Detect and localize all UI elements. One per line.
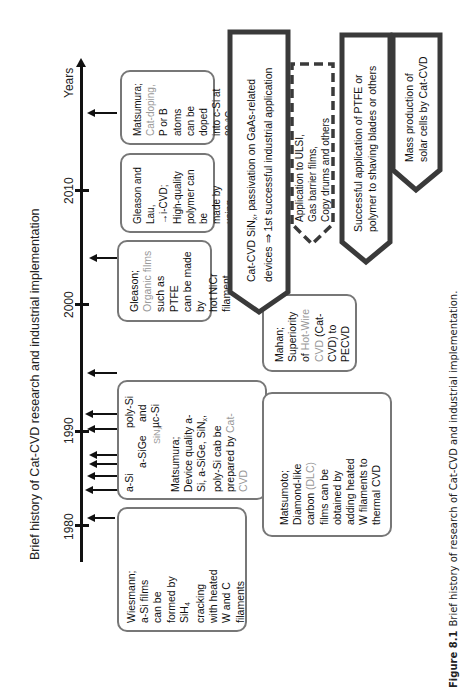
application-text-sinx: Cat-CVD SiNx, passivation on GaAs-relate… <box>245 37 275 282</box>
text: Cat-CVD SiN <box>245 220 257 282</box>
box-line: polymer to shaving blades or others <box>366 42 380 232</box>
text: , passivation on GaAs-related <box>245 79 257 217</box>
application-text-ptfe: Successful application of PTFE or polyme… <box>352 42 379 232</box>
box-line: devices ⇒ 1st successful industrial appl… <box>262 37 276 282</box>
subscript: x <box>251 217 258 221</box>
box-line: Copy drums and others <box>319 72 332 222</box>
box-line: Cat-CVD SiNx, passivation on GaAs-relate… <box>245 37 262 282</box>
box-line: Mass production of <box>403 37 417 162</box>
box-line: solar cells by Cat-CVD <box>417 37 431 162</box>
application-text-solar: Mass production of solar cells by Cat-CV… <box>403 37 430 162</box>
figure-caption: Figure 8.1Brief history of research of C… <box>448 291 459 688</box>
caption-text: Brief history of research of Cat-CVD and… <box>448 291 459 627</box>
application-text-ulsi: Application to ULSI, Gas barrier films, … <box>293 72 332 222</box>
box-line: Successful application of PTFE or <box>352 42 366 232</box>
box-line: Application to ULSI, <box>293 72 306 222</box>
application-arrows <box>0 0 466 692</box>
figure-canvas: Brief history of Cat-CVD research and in… <box>0 0 466 692</box>
box-line: Gas barrier films, <box>306 72 319 222</box>
caption-label: Figure 8.1 <box>448 631 459 688</box>
